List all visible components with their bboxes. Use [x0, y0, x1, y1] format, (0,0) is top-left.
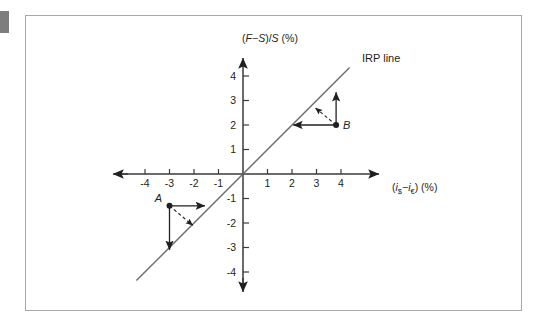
point-a-label: A: [154, 192, 162, 204]
y-tick-label-1: 1: [230, 143, 236, 155]
y-tick-label-2: 2: [230, 119, 236, 131]
x-tick-label-4: 4: [338, 177, 344, 189]
x-tick-label--2: -2: [189, 177, 198, 189]
point-b-group: B: [293, 92, 350, 131]
point-a-group: A: [154, 192, 205, 250]
point-a-marker: [167, 203, 173, 209]
y-tick-label-3: 3: [230, 94, 236, 106]
x-tick-label--1: -1: [214, 177, 223, 189]
x-tick-label--4: -4: [140, 177, 149, 189]
svg-text:(F−S)/S (%): (F−S)/S (%): [242, 32, 298, 44]
svg-text:(i$−i€) (%): (i$−i€) (%): [392, 181, 437, 196]
x-tick-label--3: -3: [165, 177, 174, 189]
y-axis-label-s2: S: [272, 32, 279, 44]
point-b-label: B: [343, 119, 350, 131]
irp-chart: -4 -3 -2 -1 1 2 3 4 4 3 2 1 -1 -2 -3 -4 …: [0, 0, 539, 326]
axis-lines: [113, 58, 379, 292]
y-tick-label--2: -2: [227, 217, 236, 229]
x-tick-label-2: 2: [289, 177, 295, 189]
x-tick-label-1: 1: [265, 177, 271, 189]
x-axis-label-pct: (%): [418, 181, 437, 193]
point-b-arrow-diagonal-dashed: [315, 108, 336, 125]
y-tick-label-4: 4: [230, 70, 236, 82]
irp-line-label: IRP line: [362, 52, 400, 64]
y-axis-label: (F−S)/S (%): [242, 32, 298, 44]
figure-root: -4 -3 -2 -1 1 2 3 4 4 3 2 1 -1 -2 -3 -4 …: [0, 0, 539, 326]
x-tick-label-3: 3: [314, 177, 320, 189]
y-tick-label--3: -3: [227, 241, 236, 253]
y-tick-label--4: -4: [227, 266, 236, 278]
y-axis-label-pct: (%): [279, 32, 298, 44]
y-axis-label-s1: S: [258, 32, 265, 44]
y-tick-label--1: -1: [227, 192, 236, 204]
point-b-marker: [333, 122, 339, 128]
point-a-arrow-diagonal-dashed: [170, 206, 193, 226]
x-axis-label: (i$−i€) (%): [392, 181, 437, 196]
x-tick-labels: -4 -3 -2 -1 1 2 3 4: [140, 177, 344, 189]
